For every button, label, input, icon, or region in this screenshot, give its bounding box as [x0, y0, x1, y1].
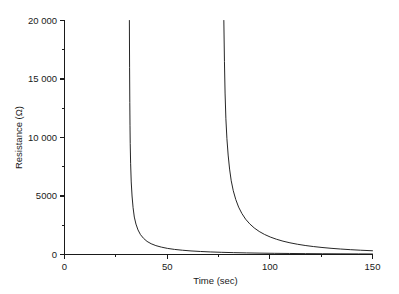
x-axis-tick-labels: 050100150 [62, 261, 381, 272]
y-tick-label: 10 000 [28, 132, 57, 143]
x-tick-label: 100 [262, 261, 278, 272]
y-tick-label: 0 [52, 249, 57, 260]
data-curve-first-transition [129, 21, 372, 254]
data-curve-second-transition [224, 21, 373, 251]
y-tick-label: 15 000 [28, 73, 57, 84]
x-tick-label: 150 [365, 261, 381, 272]
figure-container: 0500010 00015 00020 000 050100150 Resist… [0, 0, 399, 294]
x-tick-label: 50 [162, 261, 173, 272]
y-tick-label: 5000 [36, 190, 57, 201]
y-axis-tick-labels: 0500010 00015 00020 000 [28, 15, 57, 260]
x-axis-title: Time (sec) [193, 275, 238, 286]
resistance-vs-time-chart: 0500010 00015 00020 000 050100150 Resist… [0, 0, 399, 294]
y-axis-title: Resistance (Ω) [13, 106, 24, 169]
y-axis-major-ticks [60, 21, 65, 255]
y-tick-label: 20 000 [28, 15, 57, 26]
caption-sliver [8, 289, 268, 294]
x-tick-label: 0 [62, 261, 67, 272]
data-curves [129, 21, 372, 254]
axis-spines [65, 21, 373, 255]
